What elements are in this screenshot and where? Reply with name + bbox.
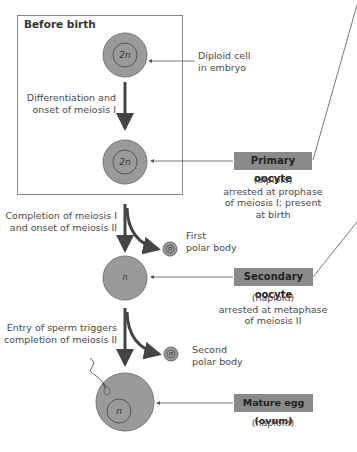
cell2-label: 2n bbox=[110, 156, 140, 168]
mature-egg-icon bbox=[96, 373, 154, 431]
entry-sperm-label: Entry of sperm triggerscompletion of mei… bbox=[0, 322, 117, 345]
completion-meiosis1-label: Completion of meiosis Iand onset of meio… bbox=[0, 210, 117, 233]
diploid-cell-label: Diploid cellin embryo bbox=[198, 50, 250, 73]
differentiation-label: Differentiation andonset of meiosis I bbox=[20, 92, 116, 115]
first-polar-label: Firstpolar body bbox=[186, 230, 237, 253]
cell1-label: 2n bbox=[110, 49, 140, 61]
polar2-label: n bbox=[156, 348, 186, 360]
first-polar-arrow bbox=[127, 208, 158, 249]
cell3-label: n bbox=[110, 272, 140, 284]
mature-egg-desc: (haploid) bbox=[215, 417, 331, 429]
egg-label: n bbox=[104, 405, 134, 417]
second-polar-arrow bbox=[127, 312, 159, 354]
primary-oocyte-desc: (diploid)arrested at prophaseof meiosis … bbox=[215, 174, 331, 220]
box-title: Before birth bbox=[24, 18, 96, 30]
mature-egg-tag: Mature egg (ovum) bbox=[234, 394, 313, 412]
primary-oocyte-tag: Primary oocyte bbox=[234, 152, 312, 170]
secondary-oocyte-tag: Secondary oocyte bbox=[234, 268, 313, 286]
second-polar-label: Secondpolar body bbox=[192, 344, 243, 367]
polar1-label: n bbox=[155, 243, 185, 255]
sperm-icon bbox=[90, 358, 103, 383]
secondary-oocyte-desc: (haploid)arrested at metaphaseof meiosis… bbox=[215, 292, 331, 327]
